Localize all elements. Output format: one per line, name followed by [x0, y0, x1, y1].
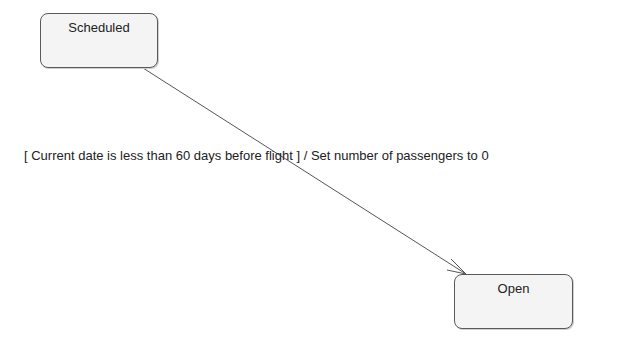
state-scheduled-label: Scheduled: [68, 20, 129, 35]
state-scheduled[interactable]: Scheduled: [40, 13, 158, 68]
transition-label: [ Current date is less than 60 days befo…: [24, 148, 489, 163]
state-open-label: Open: [498, 281, 530, 296]
transition-line[interactable]: [143, 68, 466, 274]
state-open[interactable]: Open: [454, 274, 573, 329]
arrowhead-icon: [447, 259, 466, 274]
